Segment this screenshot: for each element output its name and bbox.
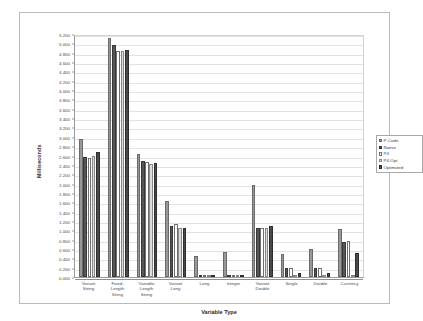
plot-area	[74, 35, 364, 278]
bar[interactable]	[199, 275, 203, 277]
legend-label: Native	[383, 145, 395, 150]
x-axis-tick-label: Fixed- Length String	[103, 280, 132, 306]
legend-item[interactable]: P-Code	[379, 138, 421, 145]
legend-label: P4-Opt	[383, 158, 397, 163]
x-axis-tick-label: Variant Long	[161, 280, 190, 306]
legend-item[interactable]: Optimized	[379, 164, 421, 171]
bar[interactable]	[203, 275, 207, 277]
y-axis-tick-label: 1.600	[59, 201, 70, 206]
bar[interactable]	[314, 268, 318, 277]
bar[interactable]	[170, 226, 174, 277]
bar-group	[104, 36, 133, 277]
y-axis-tick-label: 2.000	[59, 182, 70, 187]
bar[interactable]	[260, 228, 264, 277]
bar[interactable]	[145, 162, 149, 277]
y-axis-tick-label: 4.200	[59, 79, 70, 84]
bar-group	[161, 36, 190, 277]
x-axis-tick-label: Double	[306, 280, 335, 306]
bar[interactable]	[112, 45, 116, 277]
y-axis-tick-label: 0.000	[59, 276, 70, 281]
y-axis-tick-label: 1.400	[59, 210, 70, 215]
bar[interactable]	[137, 154, 141, 277]
bar[interactable]	[240, 275, 244, 277]
bar[interactable]	[342, 242, 346, 278]
bar[interactable]	[178, 228, 182, 277]
bar[interactable]	[256, 228, 260, 277]
bar[interactable]	[227, 275, 231, 277]
y-axis-tick-label: 2.600	[59, 154, 70, 159]
bar[interactable]	[252, 185, 256, 277]
bar[interactable]	[194, 256, 198, 277]
bar[interactable]	[207, 275, 211, 277]
bar[interactable]	[322, 275, 326, 277]
bar[interactable]	[318, 268, 322, 277]
bar[interactable]	[88, 158, 92, 277]
y-axis-tick-label: 1.200	[59, 219, 70, 224]
bar[interactable]	[265, 228, 269, 277]
x-axis-tick-label: Variable Length String	[132, 280, 161, 306]
legend-swatch-icon	[379, 165, 382, 168]
bar-group	[190, 36, 219, 277]
x-axis-tick-label: Currency	[335, 280, 364, 306]
bar[interactable]	[108, 38, 112, 277]
bar-group	[305, 36, 334, 277]
bar[interactable]	[293, 275, 297, 277]
legend-swatch-icon	[379, 146, 382, 149]
bar-group	[248, 36, 277, 277]
bar[interactable]	[154, 163, 158, 277]
y-axis-tick-label: 2.200	[59, 173, 70, 178]
bar[interactable]	[211, 275, 215, 277]
y-axis-tick-label: 0.800	[59, 238, 70, 243]
y-axis-tick-label: 0.600	[59, 247, 70, 252]
bar[interactable]	[223, 252, 227, 277]
bar[interactable]	[183, 228, 187, 277]
legend-label: P4	[383, 151, 388, 156]
bar[interactable]	[347, 241, 351, 277]
bar[interactable]	[232, 275, 236, 277]
bar[interactable]	[79, 139, 83, 277]
bar-group	[334, 36, 363, 277]
legend-swatch-icon	[379, 139, 382, 142]
bar[interactable]	[285, 268, 289, 277]
bar[interactable]	[351, 275, 355, 277]
y-axis-tick-label: 4.400	[59, 70, 70, 75]
bar[interactable]	[355, 253, 359, 277]
legend-item[interactable]: P4	[379, 151, 421, 158]
bar[interactable]	[281, 254, 285, 277]
bar[interactable]	[309, 249, 313, 277]
y-axis-tick-label: 2.400	[59, 163, 70, 168]
legend-item[interactable]: Native	[379, 144, 421, 151]
y-axis-tick-label: 4.000	[59, 89, 70, 94]
bar[interactable]	[83, 157, 87, 277]
x-axis-tick-label: Integer	[219, 280, 248, 306]
bar[interactable]	[298, 273, 302, 277]
y-axis-tick-label: 1.800	[59, 191, 70, 196]
legend-label: P-Code	[383, 138, 398, 143]
bar[interactable]	[236, 275, 240, 277]
y-axis-tick-label: 0.400	[59, 257, 70, 262]
bar[interactable]	[96, 152, 100, 277]
bar[interactable]	[289, 268, 293, 277]
bar[interactable]	[165, 201, 169, 277]
bar-groups	[75, 36, 363, 277]
bar[interactable]	[338, 229, 342, 277]
y-axis-tick-label: 4.600	[59, 61, 70, 66]
bar[interactable]	[116, 51, 120, 277]
x-axis-title: Variable Type	[74, 309, 364, 315]
bar[interactable]	[141, 161, 145, 277]
bar[interactable]	[149, 164, 153, 277]
y-axis-tick-label: 2.800	[59, 145, 70, 150]
bar-group	[133, 36, 162, 277]
legend-item[interactable]: P4-Opt	[379, 157, 421, 164]
y-axis-title: Milliseconds	[32, 121, 46, 201]
bar[interactable]	[174, 224, 178, 277]
bar[interactable]	[92, 156, 96, 277]
bar[interactable]	[125, 50, 129, 277]
bar[interactable]	[269, 226, 273, 277]
bar[interactable]	[327, 273, 331, 277]
bar[interactable]	[121, 51, 125, 277]
y-axis-tick-label: 3.200	[59, 126, 70, 131]
x-axis-tick-label: Long	[190, 280, 219, 306]
bar-group	[75, 36, 104, 277]
y-axis-tick-label: 3.800	[59, 98, 70, 103]
